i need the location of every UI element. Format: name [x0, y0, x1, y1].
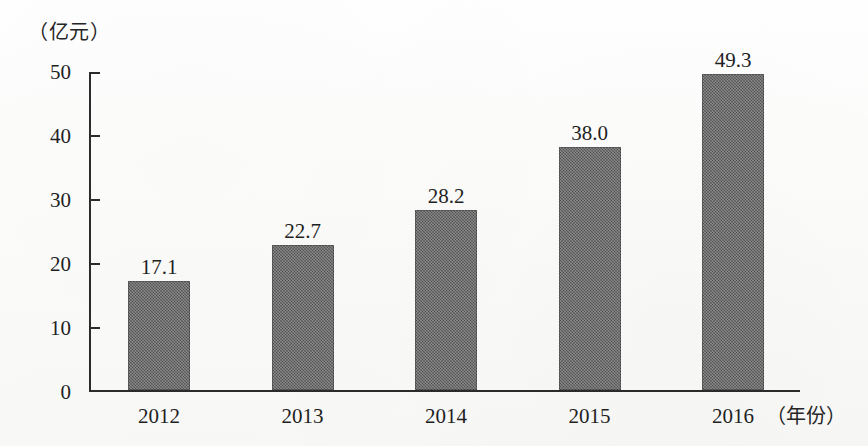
bar-chart-figure: （亿元） 50403020100 17.122.728.238.049.3 20… [0, 0, 868, 446]
bar-value-label: 22.7 [253, 221, 353, 242]
bar-value-label: 28.2 [396, 186, 496, 207]
y-axis-tick-label: 50 [25, 62, 71, 83]
bar-value-label: 17.1 [109, 257, 209, 278]
plot-area: 17.122.728.238.049.3 [89, 72, 800, 392]
bar [128, 281, 190, 390]
y-axis-tick-label: 40 [25, 126, 71, 147]
y-axis-tick-label: 20 [25, 254, 71, 275]
bar [272, 245, 334, 390]
x-axis-tick-label: 2014 [391, 406, 501, 427]
bar [559, 147, 621, 390]
y-axis-tick-mark [91, 72, 100, 74]
x-axis-tick-label: 2013 [248, 406, 358, 427]
y-axis-tick-label: 30 [25, 190, 71, 211]
y-axis-unit-label: （亿元） [28, 16, 110, 45]
y-axis-tick-label: 10 [25, 318, 71, 339]
bar [415, 210, 477, 390]
bar-value-label: 38.0 [540, 123, 640, 144]
y-axis-tick-mark [91, 199, 100, 201]
x-axis-unit-label: （年份） [766, 406, 846, 426]
bar-value-label: 49.3 [683, 50, 783, 71]
x-axis-tick-label: 2012 [104, 406, 214, 427]
y-axis-tick-label: 0 [25, 382, 71, 403]
y-axis-tick-mark [91, 263, 100, 265]
y-axis-tick-mark [91, 327, 100, 329]
y-axis-tick-label-group: 50403020100 [25, 72, 71, 392]
x-axis-tick-label: 2015 [535, 406, 645, 427]
bar [702, 74, 764, 390]
y-axis-tick-mark [91, 135, 100, 137]
y-axis-line [89, 72, 91, 392]
x-axis-line [89, 390, 800, 392]
